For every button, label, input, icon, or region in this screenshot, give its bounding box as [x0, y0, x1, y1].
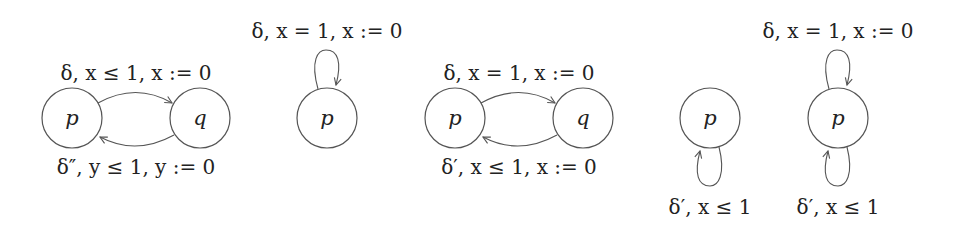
automaton-2: p δ, x = 1, x := 0 [251, 19, 402, 148]
automaton-3: p q δ, x = 1, x := 0 δ′, x ≤ 1, x := 0 [425, 61, 613, 179]
edge-label-top: δ, x = 1, x := 0 [251, 19, 402, 43]
self-loop-bottom [825, 147, 849, 186]
state-q-label: q [576, 106, 589, 130]
edge-label-top: δ, x = 1, x := 0 [762, 19, 913, 43]
state-p-label: p [448, 106, 461, 130]
edge-label-bottom: δ″, y ≤ 1, y := 0 [57, 155, 216, 179]
state-p-label: p [320, 106, 333, 130]
self-loop-top [826, 50, 850, 89]
edge-p-to-q [481, 93, 555, 104]
edge-label-bottom: δ′, x ≤ 1 [669, 195, 752, 219]
edge-label-top: δ, x ≤ 1, x := 0 [60, 61, 211, 85]
edge-q-to-p [483, 135, 557, 146]
edge-label-bottom: δ′, x ≤ 1, x := 0 [441, 155, 597, 179]
edge-p-to-q [98, 93, 172, 104]
self-loop-top [315, 50, 339, 89]
automaton-5: p δ, x = 1, x := 0 δ′, x ≤ 1 [762, 19, 913, 219]
self-loop-bottom [697, 147, 721, 186]
automata-diagram: p q δ, x ≤ 1, x := 0 δ″, y ≤ 1, y := 0 p… [0, 0, 960, 231]
edge-q-to-p [100, 135, 174, 146]
state-p-label: p [831, 106, 844, 130]
state-p-label: p [703, 106, 716, 130]
state-q-label: q [193, 106, 206, 130]
automaton-4: p δ′, x ≤ 1 [669, 88, 752, 219]
automaton-1: p q δ, x ≤ 1, x := 0 δ″, y ≤ 1, y := 0 [42, 61, 230, 179]
state-p-label: p [65, 106, 78, 130]
edge-label-bottom: δ′, x ≤ 1 [797, 195, 880, 219]
edge-label-top: δ, x = 1, x := 0 [443, 61, 594, 85]
